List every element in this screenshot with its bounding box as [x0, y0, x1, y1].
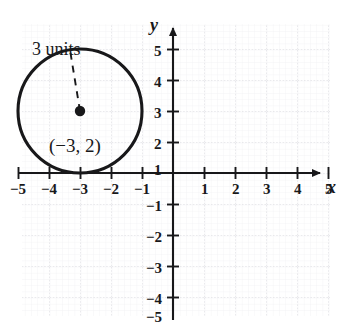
x-tick-label-4: 4: [294, 182, 302, 197]
y-tick-label-neg3: −3: [146, 261, 162, 276]
x-tick-label-2: 2: [232, 182, 240, 197]
center-point-marker: [75, 106, 85, 116]
x-tick-label-1: 1: [201, 182, 209, 197]
x-tick-label-5: 5: [325, 182, 333, 197]
graph-figure: 3 units (−3, 2) x y −5 −4 −3 −2 −1 1 2 3…: [0, 0, 348, 324]
y-tick-label-neg5: −5: [146, 310, 162, 324]
x-tick-label-neg4: −4: [41, 182, 57, 197]
y-tick-label-3: 3: [154, 106, 162, 121]
radius-annotation-label: 3 units: [32, 40, 81, 58]
y-tick-label-neg2: −2: [146, 230, 162, 245]
y-tick-label-neg4: −4: [146, 292, 162, 307]
x-tick-label-neg1: −1: [134, 182, 150, 197]
y-tick-label-5: 5: [154, 44, 162, 59]
x-tick-label-3: 3: [263, 182, 271, 197]
grid-major: [22, 24, 330, 316]
center-point-label: (−3, 2): [49, 136, 101, 155]
y-tick-label-4: 4: [154, 75, 162, 90]
y-tick-label-neg1: −1: [146, 199, 162, 214]
x-tick-label-neg2: −2: [103, 182, 119, 197]
y-axis-label: y: [150, 16, 158, 34]
y-tick-label-2: 2: [154, 137, 162, 152]
y-tick-label-1: 1: [154, 163, 162, 178]
x-tick-label-neg5: −5: [10, 182, 26, 197]
x-tick-label-neg3: −3: [72, 182, 88, 197]
